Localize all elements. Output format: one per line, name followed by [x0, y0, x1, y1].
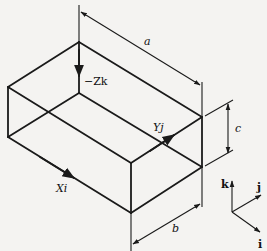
label-yj: Yj — [153, 121, 164, 134]
xi-arrow-icon — [40, 157, 74, 178]
j-unit-arrow-icon — [232, 195, 261, 212]
edge-bottom-front-right — [131, 167, 202, 213]
edge-top-back-left — [8, 42, 79, 87]
i-unit-arrow-icon — [232, 212, 260, 232]
extension-line-c-bottom — [205, 150, 233, 166]
label-i: i — [258, 238, 262, 251]
box-vector-diagram: a c b −Zk Xi Yj k j i — [0, 0, 267, 251]
dimension-line-b — [133, 204, 200, 244]
label-b: b — [172, 222, 179, 235]
label-a: a — [144, 35, 151, 48]
edge-hidden-back-left — [8, 93, 79, 137]
label-xi: Xi — [55, 182, 67, 195]
extension-line-c-top — [205, 100, 233, 116]
label-j: j — [256, 181, 261, 194]
box — [8, 42, 202, 213]
label-c: c — [235, 122, 241, 135]
label-k: k — [221, 178, 229, 191]
label-neg-zk: −Zk — [84, 75, 108, 88]
